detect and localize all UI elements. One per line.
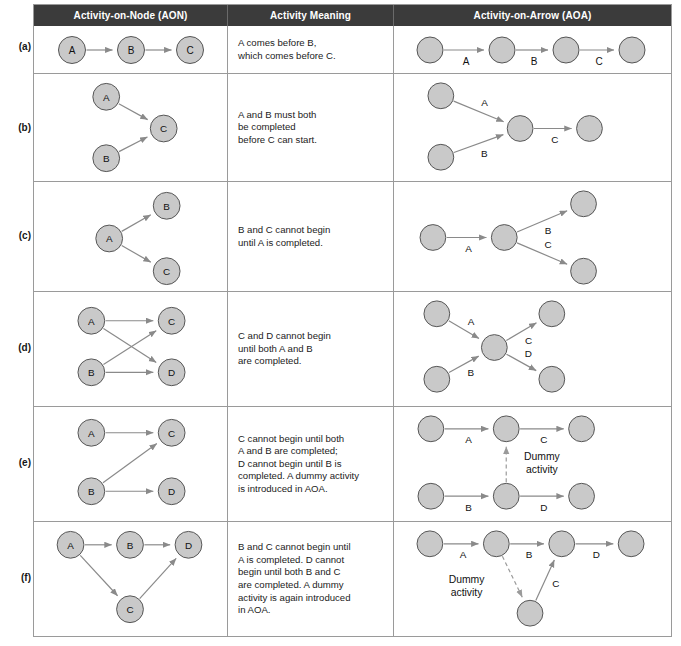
edge-label-A: A [465,243,472,254]
edge-label-D: D [525,348,532,359]
graph-node-C: C [158,419,185,446]
node-label: A [106,233,113,244]
edge-label-A: A [460,549,467,560]
node-label: C [160,123,167,134]
node-circle [493,416,519,442]
edge-A-C [80,555,117,595]
graph-node [577,116,603,142]
graph-node-C: C [158,307,185,334]
meaning-text-a: A comes before B,which comes before C. [238,37,336,62]
edge-n2-n3 [517,211,567,232]
node-circle [424,366,450,392]
edge-n2-n4 [517,243,567,264]
graph-node-C: C [150,115,177,142]
cell-aoa-c: ABC [394,182,671,291]
graph-node [493,483,519,509]
node-circle [417,37,443,63]
cell-aoa-a: ABC [394,26,671,73]
node-label: C [168,428,175,439]
figure-page: (a) (b) (c) (d) (e) (f) Activity-on-Node… [0,0,681,646]
cell-aoa-d: ABCD [394,292,671,406]
graph-node-C: C [117,596,144,623]
cell-aon-e: ABCD [34,407,228,521]
graph-node-B: B [78,478,105,505]
graph-node [553,37,579,63]
edge-label-C: C [551,134,558,145]
node-label: C [168,316,175,327]
node-circle [489,37,515,63]
cell-aoa-b: ABC [394,74,671,181]
column-header-meaning: Activity Meaning [228,5,394,26]
node-label: A [88,316,95,327]
node-circle [418,416,444,442]
cell-aon-a: ABC [34,26,228,73]
edge-label-C: C [595,56,602,67]
edge-label-B: B [468,367,475,378]
edge-label-C: C [525,335,532,346]
cell-meaning-c: B and C cannot beginuntil A is completed… [228,182,394,291]
edge-B-C [103,444,157,483]
cell-aon-f: ABDC [34,522,228,636]
table-header-row: Activity-on-Node (AON) Activity Meaning … [34,5,671,26]
dummy-activity-label: Dummy [524,451,561,462]
edge-label-A: A [463,56,470,67]
meaning-text-f: B and C cannot begin untilA is completed… [238,541,351,617]
graph-node [418,483,444,509]
edge-n2-n3 [454,135,503,153]
meaning-text-c: B and C cannot beginuntil A is completed… [238,224,330,249]
node-label: D [168,367,175,378]
graph-node-B: B [118,37,145,64]
node-label: B [127,540,134,551]
graph-node-A: A [93,83,120,110]
row-label-c: (c) [4,230,31,241]
node-circle [549,531,575,557]
column-header-aoa: Activity-on-Arrow (AOA) [394,5,671,26]
node-label: C [163,266,170,277]
graph-node [569,483,595,509]
graph-node-D: D [158,359,185,386]
graph-node [424,301,450,327]
graph-node [428,144,454,170]
cell-aon-c: ABC [34,182,228,291]
cell-meaning-f: B and C cannot begin untilA is completed… [228,522,394,636]
node-circle [483,531,509,557]
graph-node [424,366,450,392]
graph-node [517,600,543,626]
graph-node [428,83,454,109]
graph-node [417,531,443,557]
graph-node [569,416,595,442]
graph-node [481,335,507,361]
graph-node-A: A [78,307,105,334]
graph-node [618,531,644,557]
meaning-text-b: A and B must bothbe completedbefore C ca… [238,109,317,147]
graph-node [571,258,597,284]
meaning-text-d: C and D cannot beginuntil both A and Bar… [238,330,331,368]
node-label: D [168,486,175,497]
node-circle [417,531,443,557]
edge-label-B: B [481,148,488,159]
graph-node [619,37,645,63]
row-label-b: (b) [4,122,31,133]
node-circle [539,301,565,327]
node-circle [618,531,644,557]
cell-meaning-b: A and B must bothbe completedbefore C ca… [228,74,394,181]
dummy-activity-label: activity [451,587,484,598]
row-label-d: (d) [4,342,31,353]
cell-aoa-e: ACBDDummyactivity [394,407,671,521]
graph-node-C: C [177,37,204,64]
row-label-a: (a) [4,41,31,52]
node-circle [481,335,507,361]
node-circle [619,37,645,63]
node-circle [420,225,446,251]
edge-label-A: A [481,97,488,108]
edge-B-C [119,137,147,152]
node-circle [569,416,595,442]
edge-B-C [103,331,156,365]
graph-node [417,37,443,63]
node-circle [428,83,454,109]
node-circle [517,600,543,626]
edge-label-C: C [552,578,559,589]
edge-label-C: C [545,239,552,250]
dummy-activity-arrow [502,556,522,597]
cell-aon-d: ABCD [34,292,228,406]
